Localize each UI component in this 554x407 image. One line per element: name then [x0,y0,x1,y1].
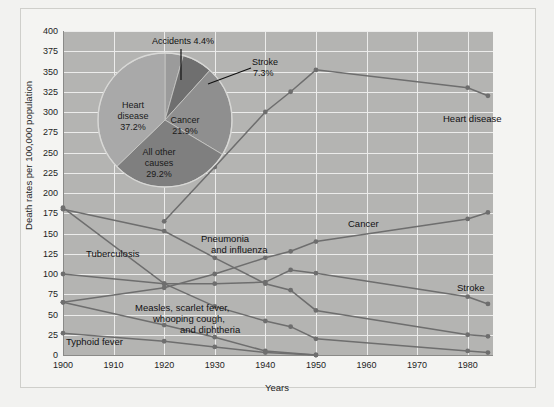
pie-callout-leaders [0,0,554,407]
chart-figure: 4003753503253002752502252001751501251007… [0,0,554,407]
